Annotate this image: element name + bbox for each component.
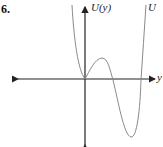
potential-plot: U(y) U y	[0, 0, 163, 147]
curve-label: U	[148, 1, 157, 13]
potential-curve	[72, 5, 146, 137]
y-axis-label: U(y)	[91, 1, 111, 14]
x-axis-label: y	[156, 71, 162, 83]
